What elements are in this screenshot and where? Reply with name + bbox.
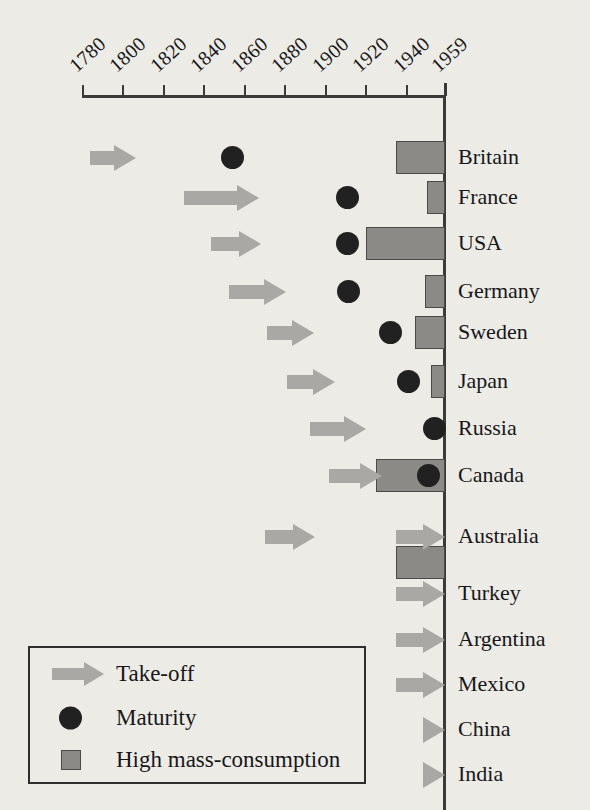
x-axis-tick-label: 1880 [267, 32, 313, 77]
country-label: India [458, 763, 503, 785]
high-mass-consumption-bar [366, 227, 445, 260]
maturity-dot [379, 321, 402, 344]
legend-item-take-off: Take-off [30, 654, 364, 694]
take-off-arrow-icon [184, 185, 259, 211]
x-axis-tick-label: 1940 [389, 32, 435, 77]
chart-row: Canada [0, 456, 590, 500]
legend-item-high-mass-consumption: High mass-consumption [30, 740, 364, 780]
country-label: Sweden [458, 321, 528, 343]
take-off-arrow-icon [329, 463, 382, 489]
maturity-dot [336, 186, 359, 209]
take-off-arrow-icon [310, 416, 366, 442]
country-label: Australia [458, 525, 539, 547]
chart-row: France [0, 178, 590, 222]
x-axis-tick-label: 1800 [105, 32, 151, 77]
x-axis-tick-label: 1860 [227, 32, 273, 77]
x-axis-tick [284, 85, 286, 96]
x-axis-tick [406, 85, 408, 96]
legend-label-maturity: Maturity [116, 705, 197, 731]
high-mass-consumption-bar [431, 365, 445, 398]
x-axis-tick-label: 1780 [65, 32, 111, 77]
chart-row: Sweden [0, 313, 590, 357]
x-axis-tick [365, 85, 367, 96]
high-mass-consumption-bar [396, 141, 445, 174]
take-off-arrow-icon [265, 524, 315, 550]
country-label: Britain [458, 146, 519, 168]
chart-row: Russia [0, 409, 590, 453]
chart-legend: Take-off Maturity High mass-consumption [28, 646, 366, 784]
take-off-arrow-icon [396, 524, 445, 550]
maturity-dot [417, 464, 440, 487]
x-axis-tick-label: 1900 [308, 32, 354, 77]
country-label: France [458, 186, 518, 208]
take-off-arrow-icon [396, 581, 445, 607]
arrow-icon [52, 662, 104, 686]
x-axis-tick-label: 1959 [427, 32, 473, 77]
circle-icon [59, 707, 82, 730]
x-axis-tick [82, 85, 84, 96]
take-off-arrow-icon [267, 320, 314, 346]
legend-item-maturity: Maturity [30, 698, 364, 738]
maturity-dot [221, 146, 244, 169]
country-label: Argentina [458, 628, 546, 650]
x-axis-line [82, 95, 445, 98]
square-icon [61, 750, 81, 770]
legend-label-high-mass-consumption: High mass-consumption [116, 747, 340, 773]
chart-canvas: 1780180018201840186018801900192019401959… [0, 0, 590, 810]
country-label: China [458, 718, 511, 740]
x-axis-tick [203, 85, 205, 96]
take-off-arrow-icon [420, 762, 445, 788]
maturity-dot [336, 232, 359, 255]
x-axis-tick [325, 85, 327, 96]
take-off-arrow-icon [420, 717, 445, 743]
take-off-arrow-icon [396, 672, 445, 698]
maturity-dot [423, 417, 446, 440]
legend-label-take-off: Take-off [116, 661, 194, 687]
x-axis-tick [444, 83, 447, 96]
country-label: USA [458, 232, 502, 254]
take-off-arrow-icon [287, 369, 335, 395]
country-label: Japan [458, 370, 508, 392]
high-mass-consumption-bar [425, 275, 445, 308]
chart-row: Germany [0, 272, 590, 316]
country-label: Germany [458, 280, 540, 302]
country-label: Russia [458, 417, 517, 439]
take-off-arrow-icon [90, 145, 136, 171]
take-off-arrow-icon [211, 231, 261, 257]
x-axis-tick-label: 1920 [348, 32, 394, 77]
take-off-arrow-icon [229, 279, 286, 305]
maturity-dot [397, 370, 420, 393]
high-mass-consumption-bar [415, 316, 445, 349]
chart-row: USA [0, 224, 590, 268]
chart-row: Britain [0, 138, 590, 182]
chart-row: Turkey [0, 574, 590, 618]
country-label: Canada [458, 464, 524, 486]
maturity-dot [337, 280, 360, 303]
chart-row: Japan [0, 362, 590, 406]
take-off-arrow-icon [396, 627, 445, 653]
country-label: Turkey [458, 582, 521, 604]
x-axis-tick [122, 85, 124, 96]
x-axis-tick-label: 1840 [186, 32, 232, 77]
x-axis-tick-label: 1820 [146, 32, 192, 77]
x-axis-tick [244, 85, 246, 96]
chart-row: Australia [0, 517, 590, 561]
high-mass-consumption-bar [427, 181, 445, 214]
x-axis-tick [163, 85, 165, 96]
country-label: Mexico [458, 673, 525, 695]
